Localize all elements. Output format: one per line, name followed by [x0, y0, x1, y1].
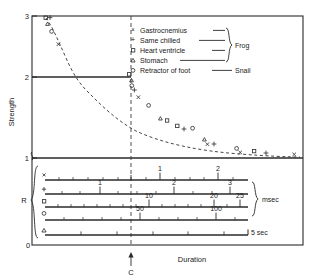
scale-tick-label: 3: [228, 179, 232, 186]
data-point-triangle: [203, 138, 207, 141]
scale-tick-label: 10: [145, 192, 153, 199]
square-marker: [42, 200, 45, 203]
scale-tick-label: 20: [210, 192, 218, 199]
origin-label-zero: 0: [26, 241, 30, 250]
circle-marker: [42, 212, 46, 216]
square-marker: [131, 49, 134, 52]
plus-marker: +: [131, 35, 136, 44]
legend-item-gastrocnemius: × Gastrocnemius: [131, 26, 225, 34]
legend-item-stomach: Stomach: [131, 57, 225, 64]
x-axis-label: Duration: [178, 255, 206, 264]
times-marker: [43, 173, 46, 176]
data-point-plus: [212, 142, 217, 147]
chronaxie-arrowhead: [128, 252, 133, 258]
circle-marker: [131, 69, 135, 73]
chronaxie-marker: C: [128, 252, 134, 277]
legend-label-retractor-of-foot: Retractor of foot: [140, 67, 190, 74]
data-point-square: [165, 119, 168, 122]
triangle-marker: [131, 58, 135, 62]
scale-tick-label: 1: [98, 179, 102, 186]
y-tick-label-2: 2: [25, 73, 29, 82]
y-axis-label: Strength: [7, 98, 16, 126]
legend-item-retractor-of-foot: Retractor of foot: [131, 67, 232, 74]
data-point-times: [137, 95, 141, 99]
strength-duration-figure: 3 2 1 Strength: [0, 0, 322, 278]
triangle-marker: [42, 228, 46, 232]
data-point-square: [176, 124, 179, 127]
y-axis: 3 2 1: [25, 13, 37, 163]
scale-tick-label: 1: [158, 165, 162, 172]
data-point-times: [206, 142, 210, 146]
stomach-scale: 5 sec: [42, 228, 268, 236]
rheobase-label: R: [21, 196, 27, 205]
data-point-triangle: [159, 117, 163, 120]
data-point-triangle: [130, 78, 134, 81]
y-tick-label-1: 1: [25, 154, 29, 163]
plus-marker: [42, 187, 46, 191]
legend: × Gastrocnemius + Same chilled Heart ven…: [131, 26, 251, 74]
chart-canvas: 3 2 1 Strength: [0, 0, 322, 278]
scale-tick-label: 100: [210, 205, 222, 212]
data-point-circle: [50, 30, 54, 34]
chronaxie-label: C: [128, 268, 134, 277]
legend-label-heart-ventricle: Heart ventricle: [140, 47, 185, 54]
data-point-circle: [130, 84, 134, 88]
times-marker: ×: [131, 26, 135, 33]
scale-tick-label: 25: [236, 192, 244, 199]
legend-label-same-chilled: Same chilled: [140, 37, 180, 44]
data-point-circle: [147, 104, 151, 108]
data-point-plus: [264, 151, 269, 156]
scale-tick-label: 2: [172, 179, 176, 186]
data-point-triangle: [46, 22, 50, 25]
y-tick-label-3: 3: [25, 13, 29, 20]
data-point-square: [252, 149, 255, 152]
legend-group-frog: Frog: [235, 42, 250, 50]
duration-scales: 1 2 1 2 3: [42, 165, 268, 236]
legend-group-snail: Snail: [235, 67, 251, 74]
data-point-times: [292, 153, 296, 157]
legend-item-heart-ventricle: Heart ventricle: [131, 47, 225, 54]
sec-label: 5 sec: [251, 229, 268, 236]
gastrocnemius-scale: 1 2: [43, 165, 248, 180]
scale-tick-label: 50: [136, 205, 144, 212]
msec-group-brace: [252, 182, 258, 216]
legend-label-stomach: Stomach: [140, 57, 168, 64]
data-point-square: [128, 73, 131, 76]
legend-label-gastrocnemius: Gastrocnemius: [140, 27, 188, 34]
msec-label: msec: [262, 196, 279, 203]
data-point-plus: [182, 127, 187, 132]
data-point-circle: [191, 126, 195, 130]
legend-item-same-chilled: + Same chilled: [131, 35, 225, 44]
data-point-circle: [235, 147, 239, 151]
frog-group-brace: [226, 28, 232, 62]
scale-tick-label: 2: [216, 165, 220, 172]
data-point-plus: [132, 88, 137, 93]
